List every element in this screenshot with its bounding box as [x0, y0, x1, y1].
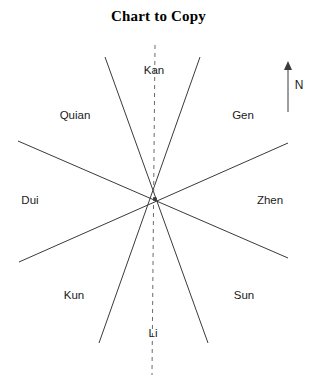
north-arrow	[284, 61, 292, 112]
sector-label-li: Li	[149, 327, 158, 339]
chart-page: Chart to Copy KanQuianGenDuiZhenKunSunLi…	[0, 0, 317, 385]
center-point	[153, 197, 157, 201]
sector-label-sun: Sun	[234, 289, 254, 301]
north-arrow-head	[284, 61, 292, 70]
sector-label-gen: Gen	[232, 109, 254, 121]
sector-label-zhen: Zhen	[257, 194, 283, 206]
bagua-diagram	[0, 0, 317, 385]
north-label: N	[295, 78, 304, 92]
sector-label-dui: Dui	[21, 194, 38, 206]
radial-line-gen-kun-axis	[99, 57, 200, 343]
sector-label-kun: Kun	[64, 289, 84, 301]
sector-label-kan: Kan	[144, 64, 164, 76]
dashed-meridian-line	[152, 45, 155, 375]
sector-label-quian: Quian	[60, 109, 91, 121]
